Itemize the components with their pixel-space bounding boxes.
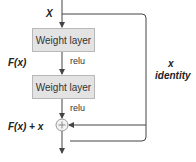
shortcut-var-label: x <box>168 58 174 69</box>
weight-layer-1: Weight layer <box>32 28 95 52</box>
weight-layer-1-label: Weight layer <box>36 35 91 46</box>
fx-label: F(x) <box>8 57 26 68</box>
sum-label: F(x) + x <box>8 121 43 132</box>
weight-layer-2-label: Weight layer <box>36 82 91 93</box>
input-label: X <box>46 8 53 19</box>
relu-label-2: relu <box>70 103 85 113</box>
shortcut-identity-label: identity <box>155 70 191 81</box>
weight-layer-2: Weight layer <box>32 75 95 99</box>
diagram-connections <box>0 0 196 162</box>
relu-label-1: relu <box>70 56 85 66</box>
